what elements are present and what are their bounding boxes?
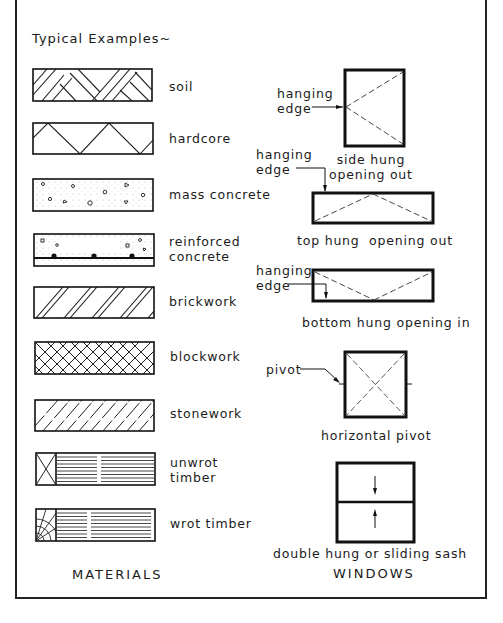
double-hung-window-icon <box>337 463 414 542</box>
page-title: Typical Examples~ <box>32 31 171 46</box>
hardcore-hatch-icon <box>33 123 153 154</box>
label-brickwork: brickwork <box>169 294 237 309</box>
label-reinforced-concrete: reinforced concrete <box>169 234 240 264</box>
label-stonework: stonework <box>170 406 242 421</box>
mass-concrete-hatch-icon <box>33 179 153 211</box>
materials-heading: MATERIALS <box>72 567 163 582</box>
unwrot-timber-hatch-icon <box>36 453 155 485</box>
soil-hatch-icon <box>33 69 152 101</box>
horizontal-pivot-window-icon <box>300 352 412 417</box>
brickwork-hatch-icon <box>34 287 175 318</box>
label-soil: soil <box>169 79 193 94</box>
label-hardcore: hardcore <box>169 131 231 146</box>
annotation-pivot: pivot <box>266 362 301 377</box>
annotation-side-hung: hanging edge <box>277 86 333 116</box>
label-blockwork: blockwork <box>170 349 241 364</box>
label-horizontal-pivot: horizontal pivot <box>321 428 431 443</box>
stonework-hatch-icon <box>35 400 166 431</box>
label-unwrot-timber: unwrot timber <box>170 455 218 485</box>
label-mass-concrete: mass concrete <box>169 187 271 202</box>
label-double-hung: double hung or sliding sash <box>273 546 467 561</box>
label-side-hung: side hung opening out <box>329 152 413 182</box>
label-top-hung: top hung opening out <box>297 233 453 248</box>
label-wrot-timber: wrot timber <box>170 516 252 531</box>
windows-heading: WINDOWS <box>333 566 415 581</box>
blockwork-hatch-icon <box>11 342 175 374</box>
annotation-bottom-hung: hanging edge <box>256 263 312 293</box>
reinforced-concrete-hatch-icon <box>34 234 154 266</box>
wrot-timber-hatch-icon <box>14 509 155 563</box>
label-bottom-hung: bottom hung opening in <box>302 315 470 330</box>
annotation-top-hung: hanging edge <box>256 147 312 177</box>
